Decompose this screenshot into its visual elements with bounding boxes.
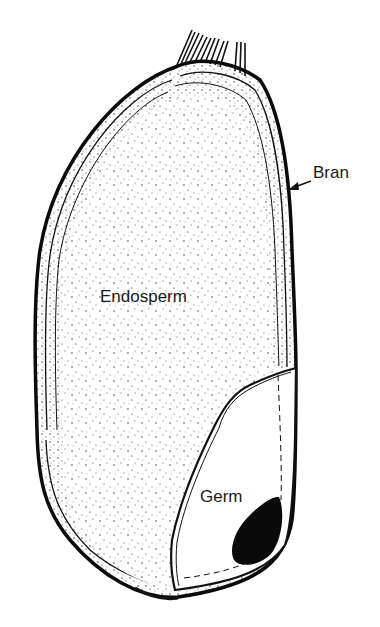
bran-label: Bran [313, 163, 349, 183]
germ-label: Germ [200, 487, 243, 507]
bran-arrow [288, 181, 311, 190]
clipped-caption [0, 615, 380, 627]
kernel-illustration [0, 0, 380, 627]
grain-diagram: Endosperm Germ Bran [0, 0, 380, 627]
endosperm-label: Endosperm [100, 287, 187, 307]
